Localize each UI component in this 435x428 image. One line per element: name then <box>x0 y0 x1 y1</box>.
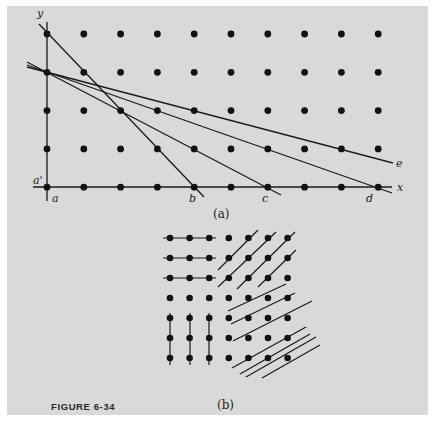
lattice-point <box>226 295 233 302</box>
lattice-point <box>265 355 272 362</box>
lattice-point <box>167 235 174 242</box>
lattice-point <box>186 275 193 282</box>
lattice-point <box>206 235 213 242</box>
lattice-point <box>375 146 382 153</box>
lattice-point <box>284 355 291 362</box>
label-a-prime: a' <box>33 174 43 187</box>
caption-b: (b) <box>217 398 234 412</box>
label-c: c <box>262 192 268 205</box>
lattice-point <box>265 335 272 342</box>
lattice-point <box>264 31 271 38</box>
lattice-point <box>167 255 174 262</box>
lattice-point <box>186 315 193 322</box>
lattice-point <box>80 184 87 191</box>
lattice-point <box>284 235 291 242</box>
lattice-point <box>117 107 124 114</box>
lattice-point <box>245 335 252 342</box>
lattice-point <box>284 295 291 302</box>
label-e: e <box>396 157 403 170</box>
lattice-point <box>228 31 235 38</box>
lattice-point <box>206 275 213 282</box>
lattice-point <box>264 146 271 153</box>
lattice-point <box>301 107 308 114</box>
lattice-point <box>80 69 87 76</box>
lattice-point <box>117 184 124 191</box>
lattice-point <box>226 255 233 262</box>
lattice-point <box>206 335 213 342</box>
lattice-point <box>44 69 51 76</box>
lattice-point <box>80 107 87 114</box>
lattice-point <box>265 295 272 302</box>
lattice-point <box>284 335 291 342</box>
figure-label: FIGURE 6-34 <box>51 401 115 412</box>
lattice-point <box>191 31 198 38</box>
lattice-point <box>264 69 271 76</box>
lattice-point <box>245 275 252 282</box>
lattice-point <box>117 31 124 38</box>
line-to-d <box>27 65 392 193</box>
panel-a-lattice <box>44 31 382 191</box>
lattice-point <box>226 235 233 242</box>
lattice-point <box>167 295 174 302</box>
lattice-point <box>338 184 345 191</box>
lattice-point <box>264 184 271 191</box>
lattice-point <box>228 184 235 191</box>
lattice-point <box>80 31 87 38</box>
lattice-point <box>228 69 235 76</box>
lattice-point <box>154 146 161 153</box>
lattice-point <box>186 295 193 302</box>
lattice-point <box>338 107 345 114</box>
lattice-point <box>265 235 272 242</box>
lattice-point <box>301 69 308 76</box>
label-b: b <box>189 192 196 205</box>
lattice-point <box>206 255 213 262</box>
lattice-point <box>154 107 161 114</box>
lattice-point <box>375 31 382 38</box>
lattice-point <box>191 107 198 114</box>
label-d: d <box>366 192 373 205</box>
lattice-point <box>206 355 213 362</box>
lattice-point <box>44 107 51 114</box>
lattice-point <box>44 146 51 153</box>
lattice-point <box>206 295 213 302</box>
lattice-point <box>186 255 193 262</box>
lattice-point <box>375 107 382 114</box>
lattice-point <box>154 31 161 38</box>
lattice-point <box>265 275 272 282</box>
lattice-point <box>245 255 252 262</box>
label-a: a <box>52 192 59 205</box>
lattice-point <box>265 315 272 322</box>
lattice-point <box>186 335 193 342</box>
lattice-point <box>44 184 51 191</box>
lattice-point <box>117 69 124 76</box>
caption-a: (a) <box>213 207 230 221</box>
lattice-point <box>284 315 291 322</box>
y-axis-label: y <box>36 7 44 20</box>
lattice-point <box>338 69 345 76</box>
lattice-point <box>80 146 87 153</box>
lattice-point <box>375 184 382 191</box>
lattice-point <box>154 184 161 191</box>
lattice-point <box>338 146 345 153</box>
lattice-point <box>228 146 235 153</box>
lattice-point <box>245 295 252 302</box>
lattice-point <box>301 184 308 191</box>
lattice-point <box>226 335 233 342</box>
lattice-point <box>191 184 198 191</box>
lattice-point <box>191 69 198 76</box>
lattice-point <box>226 315 233 322</box>
lattice-point <box>154 69 161 76</box>
lattice-point <box>167 355 174 362</box>
lattice-point <box>284 255 291 262</box>
lattice-point <box>44 31 51 38</box>
lattice-point <box>265 255 272 262</box>
panel-b-lines <box>163 230 320 378</box>
lattice-point <box>191 146 198 153</box>
lattice-point <box>167 335 174 342</box>
lattice-point <box>245 355 252 362</box>
lattice-point <box>375 69 382 76</box>
lattice-point <box>245 235 252 242</box>
lattice-point <box>226 355 233 362</box>
lattice-point <box>228 107 235 114</box>
lattice-point <box>338 31 345 38</box>
